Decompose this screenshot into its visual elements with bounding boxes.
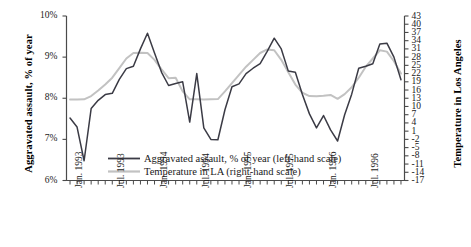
chart-figure: Aggravated assault, % of year Temperatur… — [0, 0, 471, 247]
series-line-temperature — [70, 49, 401, 99]
y-axis-left-tick-label: 10% — [24, 10, 58, 20]
y-axis-right-ticks — [405, 16, 409, 181]
y-axis-right-tick-label: -17 — [412, 175, 438, 185]
series-line-assault — [70, 33, 401, 160]
x-axis-tick-label: Jan. 1993 — [74, 151, 84, 187]
x-axis-tick-label: Jul. 1993 — [116, 153, 126, 188]
legend-item-temperature: Temperature in LA (right-hand scale) — [144, 166, 301, 177]
y-axis-left-tick-label: 6% — [24, 175, 58, 185]
y-axis-left-tick-label: 8% — [24, 92, 58, 102]
y-axis-left-tick-label: 7% — [24, 133, 58, 143]
legend-item-assault: Aggravated assault, % of year (left-hand… — [144, 153, 341, 164]
plot-area — [0, 0, 471, 247]
y-axis-left-tick-label: 9% — [24, 51, 58, 61]
x-axis-tick-label: Jul. 1996 — [370, 153, 380, 188]
